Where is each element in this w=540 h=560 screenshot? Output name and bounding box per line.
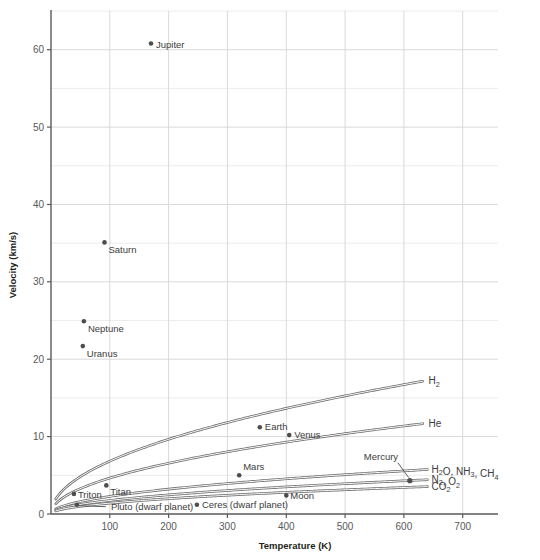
glyph: e	[436, 418, 442, 429]
y-tick-label: 40	[33, 199, 45, 210]
data-point-ceres	[195, 502, 200, 507]
data-point-triton	[72, 492, 77, 497]
tick-labels: 0102030405060100200300400500600700	[33, 44, 472, 532]
x-tick-label: 500	[337, 521, 354, 532]
x-axis-title: Temperature (K)	[259, 540, 332, 551]
x-tick-label: 300	[219, 521, 236, 532]
glyph: H	[487, 468, 494, 479]
y-tick-label: 10	[33, 431, 45, 442]
escape-velocity-chart: JupiterSaturnNeptuneUranusEarthVenusMars…	[0, 0, 540, 560]
gas-label-H2: H2	[429, 375, 440, 388]
data-point-earth	[258, 425, 263, 430]
point-label-ceres: Ceres (dwarf planet)	[202, 499, 288, 510]
point-label-mars: Mars	[243, 461, 264, 472]
data-point-pluto	[75, 502, 80, 507]
point-label-venus: Venus	[294, 429, 321, 440]
glyph: H	[463, 466, 470, 477]
plot-canvas: JupiterSaturnNeptuneUranusEarthVenusMars…	[0, 0, 540, 560]
data-point-titan	[104, 483, 109, 488]
point-label-neptune: Neptune	[88, 323, 124, 334]
point-label-saturn: Saturn	[109, 244, 137, 255]
glyph: C	[431, 481, 438, 492]
y-tick-label: 20	[33, 354, 45, 365]
data-point-neptune	[82, 319, 87, 324]
x-tick-label: 600	[396, 521, 413, 532]
x-tick-label: 400	[278, 521, 295, 532]
y-tick-label: 30	[33, 276, 45, 287]
y-axis-title: Velocity (km/s)	[7, 232, 18, 299]
point-label-jupiter: Jupiter	[156, 39, 185, 50]
data-point-jupiter	[149, 41, 154, 46]
data-point-moon	[284, 493, 289, 498]
y-tick-label: 60	[33, 44, 45, 55]
x-tick-label: 200	[160, 521, 177, 532]
point-label-mercury: Mercury	[364, 451, 399, 462]
subscript: 2	[446, 485, 450, 494]
glyph: C	[480, 468, 487, 479]
subscript: 2	[436, 380, 440, 389]
body-labels: JupiterSaturnNeptuneUranusEarthVenusMars…	[78, 39, 409, 512]
point-label-pluto: Pluto (dwarf planet)	[111, 501, 193, 512]
point-label-moon: Moon	[290, 490, 314, 501]
data-point-venus	[287, 433, 292, 438]
data-point-mercury	[407, 478, 412, 483]
gas-series-labels: H2HeH2O, NH3, CH4N2, O2CO2	[429, 375, 499, 494]
body-points	[72, 41, 413, 507]
point-label-triton: Triton	[78, 489, 102, 500]
data-point-uranus	[81, 344, 86, 349]
gas-label-He: He	[429, 418, 442, 429]
subscript: 2	[456, 481, 460, 490]
y-tick-label: 50	[33, 122, 45, 133]
x-tick-label: 700	[454, 521, 471, 532]
glyph: H	[429, 375, 436, 386]
glyph: N	[456, 466, 463, 477]
minor-gridlines	[51, 11, 498, 475]
glyph: H	[429, 418, 436, 429]
subscript: 4	[494, 473, 498, 482]
axis-lines	[47, 10, 498, 518]
y-tick-label: 0	[38, 509, 44, 520]
data-point-saturn	[102, 240, 107, 245]
data-point-mars	[237, 473, 242, 478]
point-label-earth: Earth	[265, 421, 288, 432]
x-tick-label: 100	[101, 521, 118, 532]
point-label-titan: Titan	[110, 486, 131, 497]
point-label-uranus: Uranus	[87, 348, 118, 359]
major-gridlines	[51, 11, 498, 514]
